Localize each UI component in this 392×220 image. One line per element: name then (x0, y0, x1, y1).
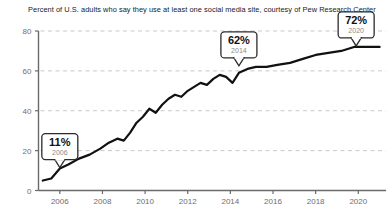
callout-value-2014: 62% (228, 34, 250, 46)
gridlines (41, 31, 387, 151)
x-tick-label-2014: 2014 (221, 197, 239, 206)
callout-pointer-2020 (351, 38, 361, 46)
x-tick-label-2016: 2016 (264, 197, 282, 206)
callout-year-2014: 2014 (231, 47, 247, 54)
y-tick-label-0: 0 (27, 187, 32, 196)
x-tick-label-2018: 2018 (307, 197, 325, 206)
callout-pointer-seam-2020 (352, 36, 361, 39)
callout-2020: 72%2020 (338, 12, 374, 46)
callout-pointer-seam-2014 (234, 56, 243, 59)
x-tick-label-2008: 2008 (94, 197, 112, 206)
callout-value-2020: 72% (345, 14, 367, 26)
chart-container: Percent of U.S. adults who say they use … (0, 0, 392, 220)
x-axis-ticks: 20062008201020122014201620182020 (51, 191, 368, 206)
y-axis-ticks: 020406080 (23, 27, 39, 196)
callout-pointer-2014 (234, 58, 244, 66)
y-tick-label-20: 20 (23, 147, 32, 156)
line-chart-plot: 020406080 200620082010201220142016201820… (0, 0, 392, 220)
callout-year-2020: 2020 (348, 27, 364, 34)
x-tick-label-2006: 2006 (51, 197, 69, 206)
annotation-callouts: 11%200662%201472%2020 (42, 12, 374, 168)
y-tick-label-40: 40 (23, 107, 32, 116)
y-tick-label-60: 60 (23, 67, 32, 76)
data-line-series-0 (43, 47, 380, 181)
y-tick-label-80: 80 (23, 27, 32, 36)
x-tick-label-2010: 2010 (136, 197, 154, 206)
x-tick-label-2020: 2020 (349, 197, 367, 206)
x-tick-label-2012: 2012 (179, 197, 197, 206)
callout-2014: 62%2014 (221, 32, 257, 66)
callout-pointer-seam-2006 (55, 158, 64, 161)
callout-year-2006: 2006 (52, 149, 68, 156)
callout-value-2006: 11% (49, 136, 71, 148)
